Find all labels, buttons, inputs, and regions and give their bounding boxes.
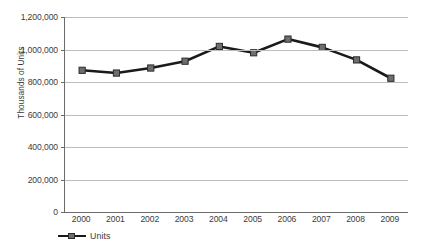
x-axis-tick-label: 2009: [380, 214, 399, 224]
legend-marker-units: [58, 232, 86, 241]
gridline: [65, 82, 408, 83]
x-axis-tick-label: 2001: [106, 214, 125, 224]
gridline: [65, 115, 408, 116]
x-axis-tick-label: 2000: [72, 214, 91, 224]
y-axis-tick: [61, 147, 65, 148]
y-axis-tick: [61, 17, 65, 18]
y-axis-tick: [61, 82, 65, 83]
x-axis-tick-label: 2008: [346, 214, 365, 224]
x-axis-tick-label: 2006: [278, 214, 297, 224]
y-axis-tick-label: 1,000,000: [21, 45, 58, 55]
legend-label-units: Units: [90, 231, 111, 241]
y-axis-tick-label: 200,000: [28, 175, 58, 185]
data-point-marker: [251, 50, 257, 56]
x-axis-tick-label: 2002: [140, 214, 159, 224]
y-axis-tick-label: 400,000: [28, 142, 58, 152]
data-point-marker: [148, 65, 154, 71]
data-point-marker: [113, 70, 119, 76]
y-axis-tick-labels: 1,200,0001,000,000800,000600,000400,0002…: [0, 0, 62, 245]
x-axis-tick-label: 2007: [312, 214, 331, 224]
series-line-units: [82, 39, 391, 78]
line-chart: Thousands of Units 1,200,0001,000,000800…: [0, 0, 430, 245]
y-axis-tick-label: 1,200,000: [21, 12, 58, 22]
y-axis-tick-label: 600,000: [28, 110, 58, 120]
y-axis-tick: [61, 180, 65, 181]
y-axis-tick: [61, 212, 65, 213]
x-axis-tick-label: 2004: [209, 214, 228, 224]
data-point-marker: [388, 75, 394, 81]
plot-area: [64, 17, 408, 213]
legend-square-icon: [68, 233, 75, 239]
gridline: [65, 17, 408, 18]
data-point-marker: [353, 57, 359, 63]
chart-title-cropped: [64, 0, 364, 2]
x-axis-tick-label: 2003: [175, 214, 194, 224]
chart-legend: Units: [58, 231, 111, 241]
y-axis-tick: [61, 50, 65, 51]
x-axis-tick-label: 2005: [243, 214, 262, 224]
y-axis-tick-label: 0: [53, 207, 58, 217]
gridline: [65, 147, 408, 148]
data-point-marker: [182, 58, 188, 64]
gridline: [65, 180, 408, 181]
y-axis-tick-label: 800,000: [28, 77, 58, 87]
data-point-marker: [79, 67, 85, 73]
gridline: [65, 50, 408, 51]
x-axis-tick-labels: 2000200120022003200420052006200720082009: [64, 214, 407, 228]
y-axis-tick: [61, 115, 65, 116]
data-point-marker: [285, 36, 291, 42]
